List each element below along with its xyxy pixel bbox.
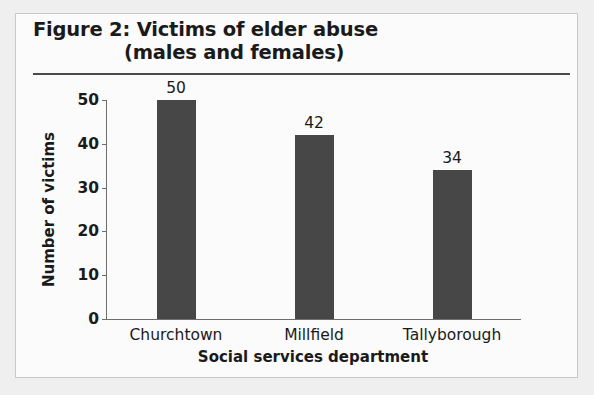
bar: 42Millfield [295,135,334,319]
bar: 34Tallyborough [433,170,472,319]
bar-value-label: 50 [166,79,186,97]
x-axis-category-label: Tallyborough [403,326,502,344]
x-axis-title: Social services department [106,348,520,366]
y-axis-tick [102,144,107,145]
chart-plot-wrapper: Number of victims 0102030405050Churchtow… [16,14,579,379]
y-axis-tick [102,100,107,101]
plot-area: 0102030405050Churchtown42Millfield34Tall… [106,100,521,320]
y-axis-tick [102,188,107,189]
bar: 50Churchtown [157,100,196,319]
y-axis-tick-label: 0 [88,310,99,328]
x-axis-category-label: Churchtown [130,326,223,344]
y-axis-tick [102,231,107,232]
y-axis-tick-label: 20 [77,222,99,240]
figure-container: Figure 2: Victims of elder abuse (males … [15,13,578,378]
bar-value-label: 42 [304,114,324,132]
x-axis-category-label: Millfield [284,326,344,344]
y-axis-tick-label: 50 [77,91,99,109]
y-axis-tick-label: 40 [77,135,99,153]
y-axis-tick [102,319,107,320]
bar-value-label: 34 [442,149,462,167]
y-axis-tick-label: 10 [77,266,99,284]
y-axis-tick-label: 30 [77,179,99,197]
y-axis-tick [102,275,107,276]
y-axis-title: Number of victims [38,100,60,319]
